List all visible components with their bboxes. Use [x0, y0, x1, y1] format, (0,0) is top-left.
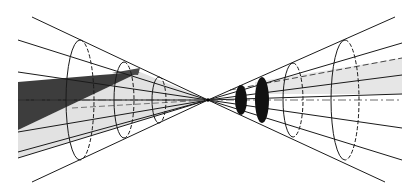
diagram-canvas	[0, 0, 418, 195]
vertex-point	[206, 98, 210, 102]
right-light-region	[255, 58, 402, 94]
double-cone-diagram	[0, 0, 418, 195]
right-cross-section	[255, 77, 269, 123]
right-cross-section	[235, 85, 247, 115]
